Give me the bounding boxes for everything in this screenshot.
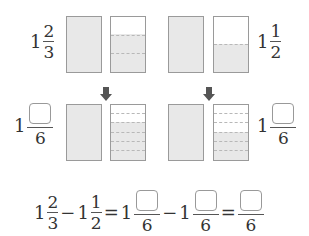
equals-sign: =: [221, 202, 236, 223]
answer-box-numerator[interactable]: [136, 190, 158, 211]
denominator: 6: [245, 216, 256, 234]
result-fraction: 6: [238, 190, 264, 234]
dashed-divider: [111, 53, 145, 54]
numerator: 1: [270, 22, 281, 40]
label-one-and-one-half: 1 1 2: [257, 22, 281, 61]
sixths-rectangle-left: [110, 104, 146, 161]
denominator: 6: [142, 216, 153, 234]
whole-number: 1: [14, 115, 25, 136]
denominator: 3: [43, 43, 54, 61]
whole-rectangle-bottom-left: [66, 104, 102, 161]
answer-box-numerator[interactable]: [29, 103, 51, 124]
answer-box-numerator[interactable]: [272, 103, 294, 124]
sixths-rectangle-right: [213, 104, 249, 161]
dashed-divider: [111, 132, 145, 133]
answer-box-numerator[interactable]: [195, 190, 217, 211]
answer-box-numerator[interactable]: [240, 190, 262, 211]
term-one-and-blank-sixths: 1 6: [179, 190, 218, 234]
whole-number: 1: [34, 202, 45, 223]
fraction: 2 3: [47, 193, 58, 232]
halves-rectangle: [213, 16, 249, 73]
dashed-divider: [214, 141, 248, 142]
thirds-rectangle: [110, 16, 146, 73]
equals-sign: =: [104, 202, 119, 223]
numerator: 2: [43, 22, 54, 40]
dashed-divider: [111, 35, 145, 36]
whole-number: 1: [77, 202, 88, 223]
whole-rectangle-top-right: [168, 16, 204, 73]
dashed-divider: [214, 122, 248, 123]
dashed-divider: [214, 44, 248, 45]
down-arrow-icon: [100, 87, 112, 101]
term-one-and-blank-sixths: 1 6: [121, 190, 160, 234]
whole-rectangle-bottom-right: [168, 104, 204, 161]
denominator: 6: [200, 216, 211, 234]
fraction: 2 3: [43, 22, 54, 61]
whole-number: 1: [257, 31, 268, 52]
denominator: 6: [35, 129, 46, 147]
numerator: 2: [47, 193, 58, 211]
numerator: 1: [91, 193, 102, 211]
fraction: 6: [193, 190, 219, 234]
whole-number: 1: [30, 31, 41, 52]
dashed-divider: [111, 150, 145, 151]
term-one-and-one-half: 1 1 2: [77, 193, 101, 232]
dashed-divider: [214, 132, 248, 133]
denominator: 3: [47, 214, 58, 232]
shaded-three-sixths: [214, 132, 248, 160]
term-one-and-two-thirds: 1 2 3: [34, 193, 58, 232]
dashed-divider: [111, 141, 145, 142]
down-arrow-icon: [203, 87, 215, 101]
label-one-and-blank-sixths-right: 1 6: [257, 103, 296, 147]
denominator: 2: [91, 214, 102, 232]
shaded-one-half: [214, 44, 248, 72]
fraction: 1 2: [91, 193, 102, 232]
label-one-and-blank-sixths-left: 1 6: [14, 103, 53, 147]
fraction: 1 2: [270, 22, 281, 61]
whole-number: 1: [257, 115, 268, 136]
whole-number: 1: [121, 202, 132, 223]
equation: 1 2 3 − 1 1 2 = 1 6 − 1 6 =: [34, 190, 264, 234]
dashed-divider: [111, 113, 145, 114]
whole-number: 1: [179, 202, 190, 223]
label-one-and-two-thirds: 1 2 3: [30, 22, 54, 61]
fraction: 6: [270, 103, 296, 147]
denominator: 2: [270, 43, 281, 61]
whole-rectangle-top-left: [66, 16, 102, 73]
fraction: 6: [134, 190, 160, 234]
fraction: 6: [27, 103, 53, 147]
minus-sign: −: [60, 202, 75, 223]
dashed-divider: [214, 150, 248, 151]
minus-sign: −: [162, 202, 177, 223]
dashed-divider: [111, 122, 145, 123]
denominator: 6: [278, 129, 289, 147]
dashed-divider: [214, 113, 248, 114]
